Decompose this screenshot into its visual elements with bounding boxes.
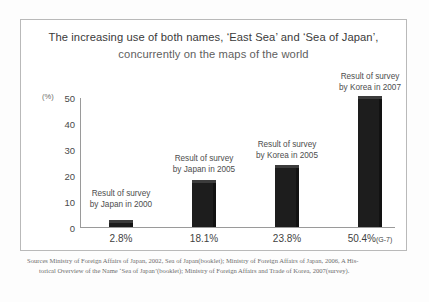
bar-annotation-1: Result of survey by Japan in 2000 [90, 188, 152, 210]
bar-value-label-4: 50.4%(G-7) [348, 233, 393, 244]
bar-annotation-2: Result of survey by Japan in 2005 [173, 153, 235, 175]
y-tick-40: 40 [64, 119, 75, 130]
y-tick-0: 0 [70, 223, 75, 234]
chart-page: The increasing use of both names, ‘East … [0, 0, 429, 302]
bar-value-3: 23.8% [273, 233, 301, 244]
bar-annotation-3: Result of survey by Korea in 2005 [256, 139, 318, 161]
bar-annotation-3-line1: Result of survey [256, 139, 318, 150]
chart-title-line1: The increasing use of both names, ‘East … [21, 29, 406, 46]
bar-value-4: 50.4% [348, 233, 376, 244]
bar-annotation-1-line1: Result of survey [90, 188, 152, 199]
bar-group: Result of survey by Japan in 2000 2.8% R… [80, 98, 395, 227]
bar-value-2: 18.1% [190, 233, 218, 244]
bar-2[interactable] [192, 180, 216, 227]
x-axis-line [80, 227, 395, 228]
bar-1[interactable] [109, 220, 133, 227]
bar-value-label-3: 23.8% [273, 233, 301, 244]
y-tick-10: 10 [64, 197, 75, 208]
bar-value-label-2: 18.1% [190, 233, 218, 244]
bar-value-1: 2.8% [110, 233, 133, 244]
bar-annotation-4-line2: by Korea in 2007 [339, 82, 401, 93]
bar-value-label-1: 2.8% [110, 233, 133, 244]
y-axis-unit-label: (%) [42, 92, 54, 101]
bar-4[interactable] [358, 96, 382, 227]
bar-3[interactable] [275, 165, 299, 227]
y-tick-30: 30 [64, 145, 75, 156]
sources-line1: Sources Ministry of Foreign Affairs of J… [27, 257, 358, 264]
chart-title: The increasing use of both names, ‘East … [21, 29, 406, 63]
bar-annotation-2-line1: Result of survey [173, 153, 235, 164]
bar-annotation-4-line1: Result of survey [339, 71, 401, 82]
y-tick-50: 50 [64, 93, 75, 104]
y-tick-20: 20 [64, 171, 75, 182]
bar-annotation-1-line2: by Japan in 2000 [90, 199, 152, 210]
chart-title-line2: concurrently on the maps of the world [21, 46, 406, 63]
bar-annotation-2-line2: by Japan in 2005 [173, 164, 235, 175]
chart-frame: The increasing use of both names, ‘East … [20, 19, 407, 251]
sources-line2: torical Overview of the Name ‘Sea of Jap… [27, 266, 401, 276]
bar-value-suffix-4: (G-7) [376, 236, 392, 243]
bar-annotation-3-line2: by Korea in 2005 [256, 150, 318, 161]
bar-annotation-4: Result of survey by Korea in 2007 [339, 71, 401, 93]
sources-note: Sources Ministry of Foreign Affairs of J… [27, 256, 401, 276]
plot-area: (%) 50 40 30 20 10 0 Result of survey by… [80, 98, 395, 228]
